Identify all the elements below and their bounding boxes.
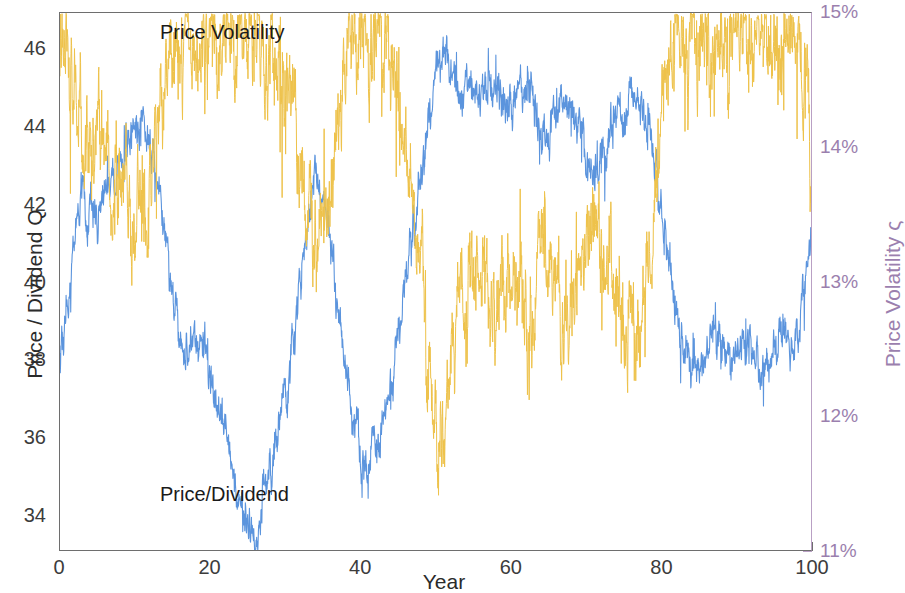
left-axis-title: Price / Dividend Q [23, 104, 47, 484]
price-volatility-annotation: Price Volatility [160, 21, 285, 44]
right-tick-label: 13% [820, 271, 858, 293]
x-tick-mark [812, 542, 813, 551]
right-axis-title: Price Volatility ς [881, 104, 905, 484]
right-tick-label: 14% [820, 136, 858, 158]
series-line-price-volatility [60, 13, 812, 495]
right-tick-label: 12% [820, 405, 858, 427]
series-plot [60, 13, 812, 551]
price-dividend-annotation: Price/Dividend [160, 483, 289, 506]
right-tick-label: 15% [820, 1, 858, 23]
x-axis-title: Year [0, 570, 888, 593]
right-tick-mark [803, 551, 812, 552]
left-tick-label: 34 [24, 503, 46, 526]
plot-area: Price Volatility Price/Dividend [59, 12, 812, 551]
series-line-price-dividend [60, 36, 812, 551]
left-tick-label: 46 [24, 37, 46, 60]
